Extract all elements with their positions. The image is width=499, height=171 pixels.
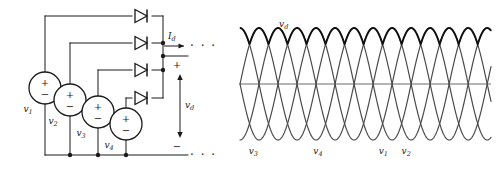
junction-dot	[68, 153, 72, 157]
junction-dot	[161, 68, 165, 72]
source-plus: +	[122, 113, 130, 124]
voltage-sublabel: d	[190, 104, 194, 112]
circuit-diagram: +−v1+−v2+−v3+−v4 Id + vd −	[23, 10, 216, 163]
waveform-plot: v1v2v3v4vd	[240, 19, 491, 158]
diode-symbols	[135, 10, 147, 105]
source-label-v3: v3	[76, 128, 85, 140]
top-continuation-dots: · · ·	[190, 39, 217, 53]
waveform-label-v4: v4	[313, 146, 322, 158]
figure-svg: +−v1+−v2+−v3+−v4 Id + vd −	[0, 0, 499, 171]
svg-text:Id: Id	[167, 31, 176, 43]
output-current-annotation: Id	[164, 31, 184, 49]
output-node-dot	[161, 54, 165, 58]
envelope-curve	[240, 28, 491, 44]
junction-dot	[161, 41, 165, 45]
source-plus: +	[94, 101, 102, 112]
waveform-label-v3: v3	[249, 146, 258, 158]
svg-text:vd: vd	[185, 100, 194, 112]
source-minus: −	[122, 125, 130, 136]
source-label-v1: v1	[23, 104, 32, 116]
terminal-plus-sign: +	[173, 59, 181, 70]
source-minus: −	[41, 89, 49, 100]
source-label-v4: v4	[104, 140, 113, 152]
voltage-sources: +−v1+−v2+−v3+−v4	[23, 72, 142, 152]
current-sublabel: d	[172, 35, 176, 43]
figure-container: +−v1+−v2+−v3+−v4 Id + vd −	[0, 0, 499, 171]
output-voltage-annotation: + vd −	[173, 59, 194, 152]
junction-dot	[96, 153, 100, 157]
terminal-minus-sign: −	[173, 141, 181, 152]
waveform-labels: v1v2v3v4vd	[249, 19, 411, 158]
source-minus: −	[94, 113, 102, 124]
source-plus: +	[41, 77, 49, 88]
junction-dot	[124, 153, 128, 157]
source-label-v2: v2	[48, 116, 57, 128]
source-minus: −	[66, 101, 74, 112]
waveform-label-v2: v2	[402, 146, 411, 158]
waveform-label-v1: v1	[379, 146, 388, 158]
source-plus: +	[66, 89, 74, 100]
bottom-continuation-dots: · · ·	[190, 148, 217, 162]
